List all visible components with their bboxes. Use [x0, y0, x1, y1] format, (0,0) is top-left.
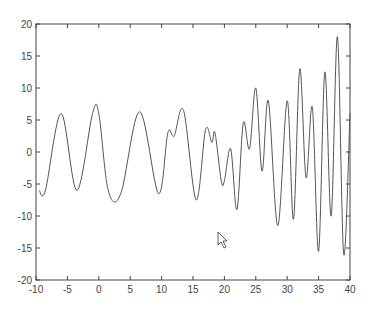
mouse-pointer-icon — [218, 232, 227, 248]
x-tick-label: 30 — [282, 284, 294, 295]
x-tick-label: -5 — [63, 284, 72, 295]
y-tick-label: -5 — [23, 179, 32, 190]
x-tick-label: 15 — [187, 284, 199, 295]
data-line — [39, 37, 350, 256]
y-tick-label: 20 — [21, 19, 33, 30]
x-tick-label: 25 — [250, 284, 262, 295]
plot-frame — [36, 24, 350, 280]
y-tick-label: 10 — [21, 83, 33, 94]
y-tick-label: 15 — [21, 51, 33, 62]
line-chart: -10-5051015202530354020151050-5-10-15-20 — [0, 0, 374, 312]
x-tick-label: 5 — [127, 284, 133, 295]
x-tick-label: 10 — [156, 284, 168, 295]
x-tick-label: 20 — [219, 284, 231, 295]
x-tick-label: 35 — [313, 284, 325, 295]
y-tick-label: -20 — [18, 275, 33, 286]
axes: -10-5051015202530354020151050-5-10-15-20 — [18, 19, 356, 295]
x-tick-label: 40 — [344, 284, 356, 295]
x-tick-label: 0 — [96, 284, 102, 295]
y-tick-label: -15 — [18, 243, 33, 254]
y-tick-label: 5 — [26, 115, 32, 126]
y-tick-label: -10 — [18, 211, 33, 222]
y-tick-label: 0 — [26, 147, 32, 158]
